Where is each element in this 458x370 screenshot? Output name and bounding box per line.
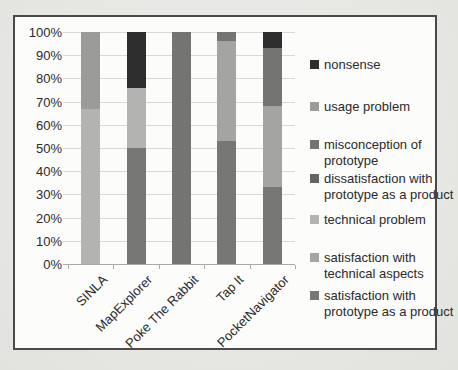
legend-label-line: nonsense <box>324 57 380 73</box>
legend-label: satisfaction withprototype as a product <box>324 288 453 320</box>
legend-label: usage problem <box>324 99 410 115</box>
y-axis-tick-label: 90% <box>15 48 62 63</box>
bar-segment <box>263 106 282 187</box>
legend-swatch <box>310 102 319 111</box>
legend-swatch <box>310 174 319 183</box>
legend-label-line: technical aspects <box>324 266 424 282</box>
legend-swatch <box>310 140 319 149</box>
stacked-bar-chart: 0%10%20%30%40%50%60%70%80%90%100%SINLAMa… <box>13 15 437 350</box>
x-axis-line <box>63 264 295 265</box>
y-axis-tick-label: 100% <box>15 25 62 40</box>
bar-segment <box>217 141 236 264</box>
x-axis-category-label: SINLA <box>73 272 110 309</box>
x-axis-category-label: Tap It <box>213 272 246 305</box>
legend-label: nonsense <box>324 57 380 73</box>
x-axis-tick <box>68 265 69 269</box>
legend-label-line: technical problem <box>324 212 426 228</box>
legend-label-line: misconception of <box>324 137 422 153</box>
x-axis-tick <box>204 265 205 269</box>
y-axis-tick-label: 30% <box>15 187 62 202</box>
legend-label-line: dissatisfaction with <box>324 171 453 187</box>
bar-segment <box>127 88 146 148</box>
y-axis-tick-label: 20% <box>15 211 62 226</box>
y-axis-tick-label: 70% <box>15 95 62 110</box>
legend-label-line: satisfaction with <box>324 250 424 266</box>
y-axis-tick-label: 0% <box>15 257 62 272</box>
bar-segment <box>172 32 191 264</box>
bar-segment <box>127 32 146 88</box>
x-axis-tick <box>113 265 114 269</box>
legend-label-line: usage problem <box>324 99 410 115</box>
bar-segment <box>217 41 236 141</box>
y-axis-tick-label: 50% <box>15 141 62 156</box>
bar-segment <box>81 32 100 109</box>
bar-segment <box>263 32 282 48</box>
legend-label-line: prototype as a product <box>324 304 453 320</box>
legend-swatch <box>310 253 319 262</box>
x-axis-tick <box>295 265 296 269</box>
bar-segment <box>127 148 146 264</box>
y-axis-tick-label: 60% <box>15 118 62 133</box>
scanned-page-background: 0%10%20%30%40%50%60%70%80%90%100%SINLAMa… <box>0 0 458 370</box>
legend-label-line: satisfaction with <box>324 288 453 304</box>
legend-label-line: prototype as a product <box>324 187 453 203</box>
x-axis-tick <box>250 265 251 269</box>
bar-segment <box>81 109 100 264</box>
legend-swatch <box>310 215 319 224</box>
legend-label: technical problem <box>324 212 426 228</box>
legend-swatch <box>310 60 319 69</box>
bar-segment <box>263 187 282 264</box>
legend-label-line: prototype <box>324 153 422 169</box>
x-axis-tick <box>159 265 160 269</box>
y-axis-tick-label: 40% <box>15 164 62 179</box>
legend-label: dissatisfaction withprototype as a produ… <box>324 171 453 203</box>
legend-label: misconception ofprototype <box>324 137 422 169</box>
legend-swatch <box>310 291 319 300</box>
bar-segment <box>263 48 282 106</box>
bar-segment <box>217 32 236 41</box>
y-axis-tick-label: 10% <box>15 234 62 249</box>
y-axis-tick-label: 80% <box>15 71 62 86</box>
legend-label: satisfaction withtechnical aspects <box>324 250 424 282</box>
